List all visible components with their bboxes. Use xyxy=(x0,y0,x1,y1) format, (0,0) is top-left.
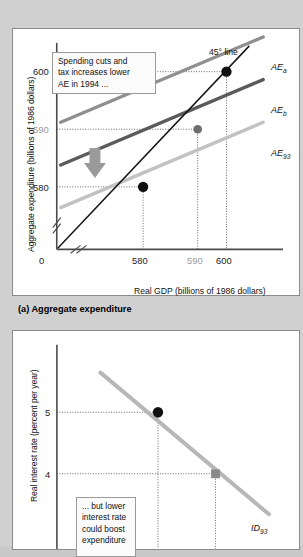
y-axis-title-a: Aggregate expenditure (billions of 1986 … xyxy=(26,77,36,252)
ytick-label-600: 600 xyxy=(33,66,49,77)
curve-label-ae-93-sub: 93 xyxy=(283,153,290,160)
xtick-label-590: 590 xyxy=(187,255,203,266)
curve-label-id93-text: ID xyxy=(251,523,260,533)
panel-investment-demand: 5 4 ID93 xyxy=(12,330,300,550)
callout-lower-interest-rate: ... but lower interest rate could boost … xyxy=(76,497,136,557)
marker-equilibrium-590 xyxy=(193,125,202,134)
curve-label-ae-b-text: AE xyxy=(271,105,283,115)
marker-interest-rate-5 xyxy=(153,407,163,417)
y-axis-title-b: Real interest rate (percent per year) xyxy=(29,370,39,502)
curve-label-ae-93-text: AE xyxy=(271,148,283,158)
forty-five-degree-label: 45° line xyxy=(209,47,238,57)
curve-label-id93: ID93 xyxy=(251,523,267,535)
curve-label-ae-93: AE93 xyxy=(271,148,290,160)
panel-a-caption: (a) Aggregate expenditure xyxy=(18,304,132,314)
curve-label-ae-b-sub: b xyxy=(283,110,287,117)
ytick-label-5: 5 xyxy=(45,407,50,418)
curve-id93 xyxy=(101,373,269,515)
callout-spending-cuts: Spending cuts and tax increases lower AE… xyxy=(52,52,156,94)
curve-label-ae-b: AEb xyxy=(271,105,287,117)
panel-b-plot xyxy=(13,331,299,549)
marker-interest-rate-4 xyxy=(211,469,220,478)
marker-equilibrium-580 xyxy=(138,182,148,192)
curve-label-ae-a: AEa xyxy=(271,62,287,74)
xtick-label-580: 580 xyxy=(132,255,148,266)
xtick-label-600: 600 xyxy=(216,255,232,266)
x-axis-title-a: Real GDP (billions of 1986 dollars) xyxy=(134,286,266,296)
curve-label-ae-a-text: AE xyxy=(271,62,283,72)
origin-label-a: 0 xyxy=(39,255,44,266)
curve-label-id93-sub: 93 xyxy=(260,528,267,535)
ytick-label-4: 4 xyxy=(45,469,50,480)
marker-equilibrium-600 xyxy=(221,67,231,77)
curve-label-ae-a-sub: a xyxy=(283,67,287,74)
